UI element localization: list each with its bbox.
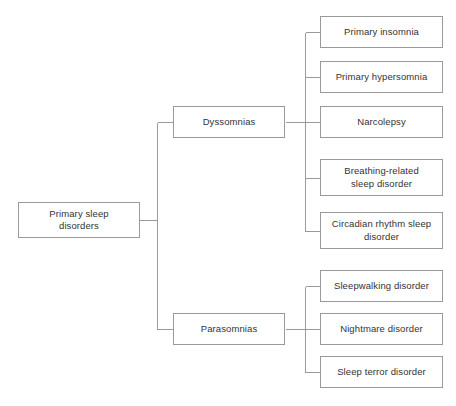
node-dyssomnias[interactable]: Dyssomnias: [173, 106, 285, 138]
node-sleepwalking-disorder-label: Sleepwalking disorder: [330, 280, 433, 293]
node-sleep-terror-disorder-label: Sleep terror disorder: [333, 366, 430, 379]
node-dyssomnias-label: Dyssomnias: [199, 116, 260, 129]
node-nightmare-disorder-label: Nightmare disorder: [336, 323, 427, 336]
node-parasomnias-label: Parasomnias: [197, 323, 262, 336]
node-primary-hypersomnia-label: Primary hypersomnia: [332, 71, 432, 84]
node-circadian-rhythm-sleep-disorder-label: Circadian rhythm sleep disorder: [328, 218, 435, 243]
node-primary-sleep-disorders[interactable]: Primary sleep disorders: [18, 202, 140, 238]
node-primary-insomnia[interactable]: Primary insomnia: [320, 16, 443, 48]
node-sleepwalking-disorder[interactable]: Sleepwalking disorder: [320, 270, 443, 302]
node-sleep-terror-disorder[interactable]: Sleep terror disorder: [320, 356, 443, 388]
node-narcolepsy[interactable]: Narcolepsy: [320, 106, 443, 138]
node-breathing-related-sleep-disorder-label: Breathing-related sleep disorder: [340, 165, 423, 190]
node-narcolepsy-label: Narcolepsy: [353, 116, 410, 129]
node-nightmare-disorder[interactable]: Nightmare disorder: [320, 313, 443, 345]
node-primary-sleep-disorders-label: Primary sleep disorders: [45, 208, 112, 233]
node-parasomnias[interactable]: Parasomnias: [173, 313, 285, 345]
node-breathing-related-sleep-disorder[interactable]: Breathing-related sleep disorder: [320, 159, 443, 196]
node-circadian-rhythm-sleep-disorder[interactable]: Circadian rhythm sleep disorder: [320, 212, 443, 249]
node-primary-insomnia-label: Primary insomnia: [340, 26, 423, 39]
node-primary-hypersomnia[interactable]: Primary hypersomnia: [320, 61, 443, 93]
sleep-disorder-tree-diagram: Primary sleep disordersDyssomniasPrimary…: [0, 0, 456, 406]
